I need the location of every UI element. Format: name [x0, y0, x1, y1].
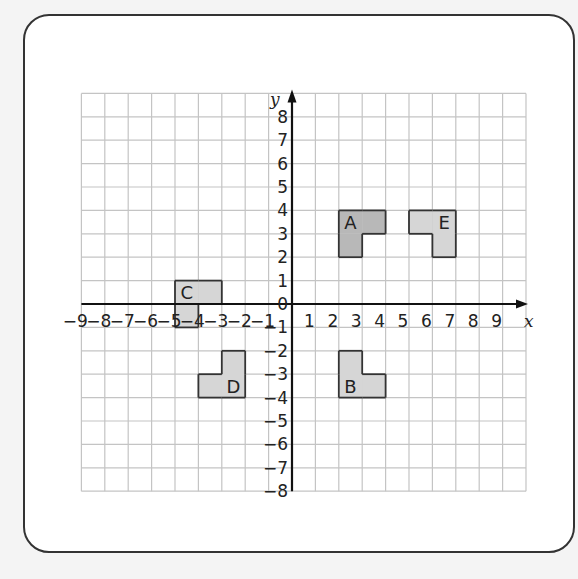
- x-tick-label: 1: [304, 311, 315, 331]
- shape-e: E: [409, 210, 456, 257]
- shape-label: D: [227, 376, 241, 397]
- x-tick-label: −5: [156, 311, 181, 331]
- x-tick-label: −6: [133, 311, 158, 331]
- x-tick-label: 7: [444, 311, 455, 331]
- x-tick-label: −8: [86, 311, 111, 331]
- y-axis-arrow-icon: [288, 89, 297, 102]
- y-axis-label: y: [269, 89, 280, 109]
- x-tick-label: 6: [421, 311, 432, 331]
- x-tick-label: 9: [491, 311, 502, 331]
- shape-b: B: [339, 351, 386, 398]
- y-tick-label: 0: [277, 294, 288, 314]
- x-tick-label: 8: [468, 311, 479, 331]
- y-tick-label: 5: [277, 177, 288, 197]
- y-tick-label: −1: [263, 317, 288, 337]
- x-tick-label: 2: [327, 311, 338, 331]
- tick-labels: −9−8−7−6−5−4−3−2−1123456789876543210−1−2…: [63, 89, 534, 501]
- y-tick-label: 1: [277, 271, 288, 291]
- y-tick-label: 6: [277, 154, 288, 174]
- shape-label: B: [344, 376, 356, 397]
- axes: [81, 89, 528, 491]
- y-tick-label: −4: [263, 388, 288, 408]
- shape-label: C: [180, 282, 193, 303]
- y-tick-label: −2: [263, 341, 288, 361]
- shape-label: A: [344, 212, 357, 233]
- x-tick-label: −9: [63, 311, 88, 331]
- y-tick-label: −7: [263, 458, 288, 478]
- x-tick-label: −2: [227, 311, 252, 331]
- x-axis-label: x: [524, 311, 534, 331]
- x-tick-label: 4: [374, 311, 385, 331]
- shape-d: D: [198, 351, 245, 398]
- x-tick-label: −3: [203, 311, 228, 331]
- y-tick-label: 4: [277, 200, 288, 220]
- y-tick-label: 8: [277, 107, 288, 127]
- x-tick-label: 3: [351, 311, 362, 331]
- y-tick-label: −6: [263, 434, 288, 454]
- y-tick-label: 7: [277, 130, 288, 150]
- x-tick-label: −7: [110, 311, 135, 331]
- y-tick-label: −5: [263, 411, 288, 431]
- y-tick-label: 2: [277, 247, 288, 267]
- x-tick-label: −4: [180, 311, 205, 331]
- x-tick-label: 5: [398, 311, 409, 331]
- grid-lines: [81, 93, 526, 491]
- coordinate-grid: ABCDE −9−8−7−6−5−4−3−2−11234567898765432…: [0, 0, 578, 579]
- shape-label: E: [438, 212, 449, 233]
- y-tick-label: −3: [263, 364, 288, 384]
- y-tick-label: −8: [263, 481, 288, 501]
- shape-a: A: [339, 210, 386, 257]
- y-tick-label: 3: [277, 224, 288, 244]
